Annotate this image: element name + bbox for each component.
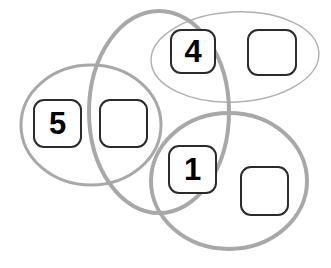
node-4-label: 4 [184, 36, 201, 67]
diagram-canvas: 5 4 1 [0, 0, 331, 268]
node-1[interactable]: 1 [168, 145, 217, 194]
node-5-label: 5 [49, 108, 66, 139]
node-5[interactable]: 5 [33, 99, 82, 148]
node-empty-bottom-right[interactable] [240, 166, 289, 216]
node-4[interactable]: 4 [170, 29, 216, 74]
node-empty-top-right[interactable] [247, 29, 297, 76]
node-1-label: 1 [184, 154, 201, 185]
node-layer: 5 4 1 [0, 0, 331, 268]
node-empty-left[interactable] [99, 99, 148, 148]
